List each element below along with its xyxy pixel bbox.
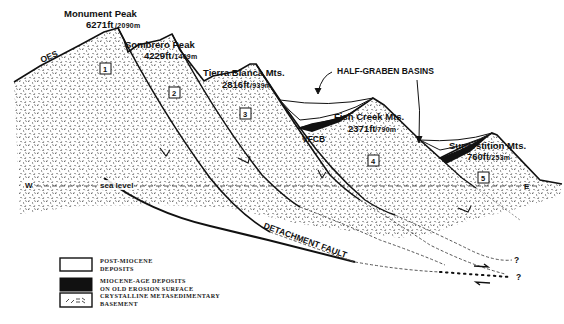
legend-item-basement: CRYSTALLINE METASEDIMENTARY BASEMENT <box>60 292 220 307</box>
svg-text:3: 3 <box>243 110 247 119</box>
svg-text:/2090m: /2090m <box>115 22 141 29</box>
east-label: E <box>524 182 530 191</box>
basement-body <box>14 28 562 238</box>
half-graben-basins-label: HALF-GRABEN BASINS <box>337 66 434 76</box>
svg-text:760ft: 760ft <box>467 151 490 162</box>
unknown-marker-1: ? <box>514 255 519 265</box>
svg-text:Sombrero Peak: Sombrero Peak <box>125 39 195 50</box>
svg-text:Monument Peak: Monument Peak <box>64 8 138 19</box>
peak-label-monument: Monument Peak 6271ft /2090m <box>64 8 141 30</box>
legend-item-post-miocene: POST-MIOCENE DEPOSITS <box>60 257 153 272</box>
svg-text:1: 1 <box>103 65 107 74</box>
block-number-4: 4 <box>368 155 379 166</box>
svg-text:/1409m: /1409m <box>172 53 198 60</box>
svg-text:/790m: /790m <box>375 126 396 133</box>
svg-text:2: 2 <box>172 89 176 98</box>
block-number-1: 1 <box>100 63 111 74</box>
svg-text:/253m: /253m <box>489 154 510 161</box>
legend-swatch-pattern <box>60 293 92 307</box>
svg-text:/939m: /939m <box>250 82 271 89</box>
svg-text:2816ft: 2816ft <box>222 79 250 90</box>
legend-post-miocene-line1: POST-MIOCENE <box>100 257 153 264</box>
svg-text:6271ft: 6271ft <box>86 19 114 30</box>
svg-text:4229ft: 4229ft <box>144 50 172 61</box>
legend-swatch-white <box>60 258 92 271</box>
svg-text:5: 5 <box>481 174 485 183</box>
svg-text:2371ft: 2371ft <box>348 123 376 134</box>
legend-basement-line1: CRYSTALLINE METASEDIMENTARY <box>100 292 220 299</box>
legend: POST-MIOCENE DEPOSITS MIOCENE-AGE DEPOSI… <box>60 257 220 307</box>
vfcb-label: VFCB <box>302 134 325 144</box>
detachment-dotted-extension <box>440 272 510 277</box>
block-number-2: 2 <box>169 87 180 98</box>
svg-text:Fish Creek Mts.: Fish Creek Mts. <box>334 111 404 122</box>
west-label: W <box>25 181 33 190</box>
unknown-marker-2: ? <box>516 272 521 282</box>
legend-basement-line2: BASEMENT <box>100 300 138 307</box>
sea-level-label: sea level <box>100 181 133 190</box>
svg-text:Superstition Mts.: Superstition Mts. <box>449 140 526 151</box>
legend-post-miocene-line2: DEPOSITS <box>100 265 134 272</box>
legend-miocene-line1: MIOCENE-AGE DEPOSITS <box>100 277 186 284</box>
cross-section-diagram: W sea level E 1 2 3 4 5 Monument Peak 62… <box>0 0 564 324</box>
legend-miocene-line2: ON OLD EROSION SURFACE <box>100 285 193 292</box>
block-number-3: 3 <box>240 108 251 119</box>
legend-item-miocene: MIOCENE-AGE DEPOSITS ON OLD EROSION SURF… <box>60 277 193 292</box>
block-number-5: 5 <box>478 172 489 183</box>
legend-swatch-black <box>60 278 92 291</box>
svg-text:Tierra Blanca Mts.: Tierra Blanca Mts. <box>203 67 285 78</box>
